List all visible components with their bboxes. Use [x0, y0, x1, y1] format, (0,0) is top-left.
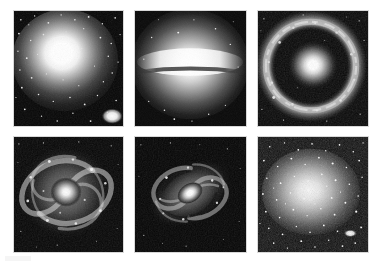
galaxy-panel-elliptical	[13, 10, 124, 127]
galaxy-panel-inclined-spiral	[134, 136, 247, 253]
panel-6-image	[258, 137, 368, 252]
panel-3-image	[258, 11, 368, 126]
panel-4-image	[14, 137, 123, 252]
galaxy-panel-edge-on-disk	[134, 10, 247, 127]
panel-1-image	[14, 11, 123, 126]
galaxy-montage-figure	[0, 0, 382, 266]
panel-5-image	[135, 137, 246, 252]
galaxy-panel-face-on-spiral	[13, 136, 124, 253]
panel-2-image	[135, 11, 246, 126]
figure-corner-artifact	[5, 256, 31, 261]
galaxy-panel-ring	[257, 10, 369, 127]
galaxy-panel-irregular-dwarf	[257, 136, 369, 253]
